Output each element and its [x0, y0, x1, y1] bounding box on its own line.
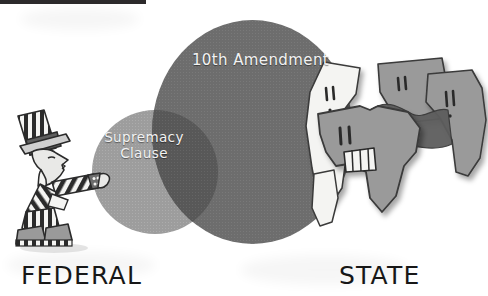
paper-smudge — [20, 8, 140, 30]
diagram-canvas: 10th Amendment Supremacy Clause FEDERAL … — [0, 0, 488, 296]
uncle-sam-hat — [18, 110, 70, 155]
state-shape-white-bottom — [312, 170, 338, 226]
uncle-sam-figure — [8, 108, 106, 253]
circle-intersection — [92, 110, 218, 234]
top-rule-divider — [0, 0, 146, 4]
state-label: STATE — [339, 261, 420, 290]
federal-label: FEDERAL — [21, 261, 142, 290]
state-map-shapes — [296, 48, 488, 238]
mouth — [344, 148, 376, 172]
